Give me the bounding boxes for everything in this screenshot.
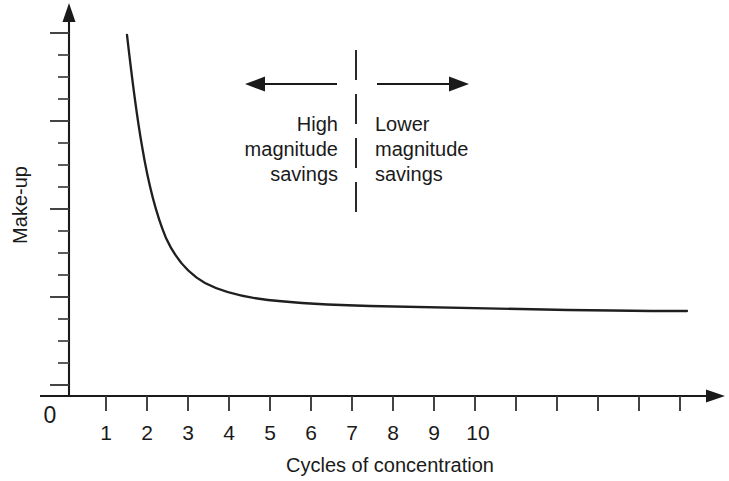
x-tick-label-9: 9 <box>428 421 440 444</box>
x-tick-label-6: 6 <box>305 421 317 444</box>
lower-savings-line-2: magnitude <box>375 138 468 160</box>
lower-savings-arrow <box>377 77 469 92</box>
high-savings-arrow <box>245 77 337 92</box>
x-tick-label-10: 10 <box>466 421 489 444</box>
chart-figure: 1 2 3 4 5 6 7 8 9 10 0 High magnitu <box>0 0 729 481</box>
x-tick-label-4: 4 <box>223 421 235 444</box>
lower-savings-line-3: savings <box>375 163 443 185</box>
high-savings-line-2: magnitude <box>245 138 338 160</box>
high-savings-line-1: High <box>297 113 338 135</box>
origin-label: 0 <box>44 402 57 428</box>
high-savings-label: High magnitude savings <box>245 113 338 185</box>
y-axis-arrowhead <box>63 3 76 22</box>
x-tick-label-3: 3 <box>182 421 194 444</box>
y-axis-title: Make-up <box>9 166 31 244</box>
lower-savings-line-1: Lower <box>375 113 430 135</box>
x-tick-label-8: 8 <box>387 421 399 444</box>
x-tick-label-2: 2 <box>141 421 153 444</box>
y-axis <box>50 3 76 396</box>
high-savings-line-3: savings <box>270 163 338 185</box>
x-tick-label-5: 5 <box>264 421 276 444</box>
x-tick-label-1: 1 <box>100 421 112 444</box>
x-axis-title: Cycles of concentration <box>286 454 494 476</box>
x-axis-arrowhead <box>706 390 725 403</box>
lower-savings-label: Lower magnitude savings <box>375 113 468 185</box>
x-tick-label-7: 7 <box>346 421 358 444</box>
x-axis: 1 2 3 4 5 6 7 8 9 10 0 <box>40 390 725 445</box>
